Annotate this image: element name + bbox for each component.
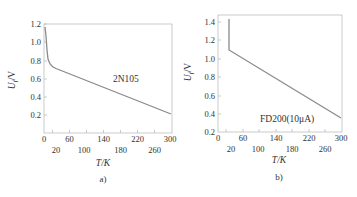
- y-tick-label: 1.2: [30, 19, 41, 29]
- y-axis-label: Uf/V: [183, 63, 195, 81]
- x-axis-label: T/K: [272, 155, 287, 165]
- x-tick-label: 20: [52, 145, 61, 155]
- panel-caption: b): [275, 172, 283, 182]
- x-tick-label: 60: [65, 134, 74, 144]
- chart-b: 1.4 1.2 1.0 0.8 0.6 0.4 0.2 0 60 140 220…: [183, 15, 347, 182]
- data-line-b: [229, 19, 341, 118]
- series-annotation: 2N105: [113, 74, 139, 84]
- x-tick-label: 100: [252, 144, 265, 154]
- x-tick-label: 300: [335, 133, 348, 143]
- figure: 1.2 1.0 0.8 0.6 0.4 0.2 0 60 140 220 300…: [0, 0, 357, 197]
- x-tick-label: 300: [164, 134, 177, 144]
- y-tick-label: 0.8: [204, 72, 215, 82]
- x-tick-label: 60: [239, 133, 248, 143]
- x-tick-label: 0: [216, 133, 220, 143]
- data-line-a: [45, 27, 171, 114]
- y-tick-label: 1.0: [30, 37, 41, 47]
- chart-a: 1.2 1.0 0.8 0.6 0.4 0.2 0 60 140 220 300…: [7, 19, 176, 184]
- y-tick-label: 1.2: [204, 35, 215, 45]
- y-tick-label: 0.6: [30, 74, 41, 84]
- x-tick-label: 220: [303, 133, 316, 143]
- y-tick-label: 0.2: [204, 127, 215, 137]
- y-tick-label: 0.2: [30, 110, 41, 120]
- x-tick-label: 260: [148, 145, 161, 155]
- y-tick-label: 0.6: [204, 91, 215, 101]
- x-tick-marks-a: [53, 130, 155, 133]
- series-annotation: FD200(10μA): [260, 114, 314, 125]
- x-tick-label: 20: [227, 144, 236, 154]
- x-tick-label: 180: [286, 144, 299, 154]
- plot-frame-a: [44, 24, 172, 133]
- x-tick-label: 180: [114, 145, 127, 155]
- y-tick-label: 0.4: [30, 92, 41, 102]
- y-axis-label: Uf/V: [7, 71, 19, 89]
- svg-text:Uf/V: Uf/V: [7, 71, 19, 89]
- x-tick-label: 140: [270, 133, 283, 143]
- x-tick-label: 140: [97, 134, 110, 144]
- x-tick-label: 100: [78, 145, 91, 155]
- x-tick-label: 220: [131, 134, 144, 144]
- y-tick-marks-b: [218, 22, 221, 114]
- x-tick-label: 260: [319, 144, 332, 154]
- x-tick-label: 0: [42, 134, 46, 144]
- panel-caption: a): [100, 174, 107, 184]
- y-tick-label: 1.4: [204, 17, 215, 27]
- y-tick-label: 1.0: [204, 54, 215, 64]
- y-tick-label: 0.8: [30, 56, 41, 66]
- svg-text:Uf/V: Uf/V: [183, 63, 195, 81]
- x-axis-label: T/K: [96, 158, 111, 168]
- x-tick-marks-b: [226, 129, 325, 132]
- y-tick-label: 0.4: [204, 109, 215, 119]
